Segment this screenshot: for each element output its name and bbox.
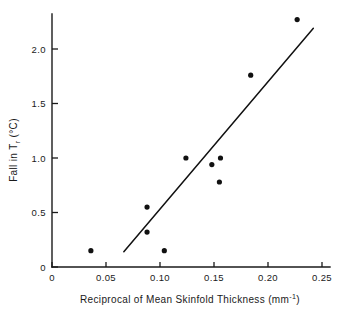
- y-tick-label: 1.0: [32, 153, 46, 164]
- x-axis-ticks-group: 00.050.100.150.200.25: [49, 262, 332, 283]
- y-tick-label: 0: [40, 262, 46, 273]
- x-tick-label: 0.05: [96, 272, 116, 283]
- data-point: [218, 155, 223, 160]
- y-axis-title: Fall in Tr (°C): [8, 118, 22, 182]
- scatter-plot-figure: 00.050.100.150.200.25 00.51.01.52.0 Reci…: [0, 0, 340, 318]
- y-tick-label: 1.5: [32, 98, 46, 109]
- axes-group: [52, 14, 330, 267]
- data-point: [183, 155, 188, 160]
- data-point: [217, 179, 222, 184]
- y-axis-ticks-group: 00.51.01.52.0: [32, 44, 58, 273]
- data-point: [88, 248, 93, 253]
- x-tick-label: 0.10: [150, 272, 170, 283]
- x-tick-label: 0.20: [258, 272, 278, 283]
- data-point: [144, 230, 149, 235]
- data-point: [295, 17, 300, 22]
- y-tick-label: 2.0: [32, 44, 46, 55]
- x-tick-label: 0: [49, 272, 55, 283]
- regression-line: [124, 28, 314, 251]
- data-point: [144, 204, 149, 209]
- x-axis-title: Reciprocal of Mean Skinfold Thickness (m…: [80, 292, 300, 305]
- regression-line-group: [124, 28, 314, 251]
- x-tick-label: 0.25: [312, 272, 332, 283]
- data-points-group: [88, 17, 299, 253]
- y-tick-label: 0.5: [32, 207, 46, 218]
- data-point: [248, 73, 253, 78]
- plot-canvas: 00.050.100.150.200.25 00.51.01.52.0 Reci…: [0, 0, 340, 318]
- x-tick-label: 0.15: [204, 272, 224, 283]
- data-point: [209, 162, 214, 167]
- data-point: [162, 248, 167, 253]
